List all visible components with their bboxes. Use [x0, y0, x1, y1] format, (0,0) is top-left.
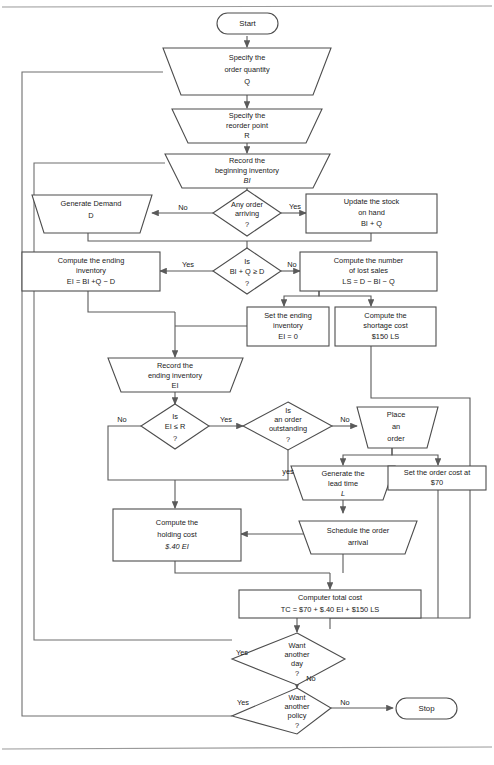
conn-computeei-down: [88, 290, 175, 312]
node-another-pol-label-1: another: [284, 702, 310, 711]
node-start-label-0: Start: [239, 19, 256, 28]
node-schedule-label-1: arrival: [348, 538, 368, 547]
node-record-bi-label-2: BI: [244, 176, 251, 185]
conn-placeorder-leadtime: [343, 448, 392, 465]
node-update-stock-label-0: Update the stock: [344, 197, 400, 206]
node-lost-sales-label-0: Compute the number: [334, 256, 404, 265]
node-eiler-label-2: ?: [173, 434, 177, 443]
node-set-ei-zero-label-1: inventory: [273, 321, 303, 330]
node-schedule-order-arrival: Schedule the order arrival: [299, 521, 417, 554]
node-record-ei-label-1: ending inventory: [148, 371, 203, 380]
node-biqged-label-1: BI + Q ≥ D: [230, 267, 265, 276]
node-eiler-label-0: Is: [172, 412, 178, 421]
node-compute-ending-inventory: Compute the ending inventory EI = BI +Q …: [22, 252, 160, 291]
node-another-day-label-3: ?: [295, 669, 299, 678]
node-lead-time-label-0: Generate the: [321, 469, 364, 478]
edge-label-biq-no: No: [287, 260, 296, 269]
node-place-order-label-0: Place: [387, 410, 406, 419]
node-generate-demand: Generate Demand D: [32, 195, 152, 233]
edge-label-biq-yes: Yes: [182, 260, 194, 269]
conn-gendemand-merge: [88, 233, 247, 241]
node-specify-order-quantity: Specify the order quantity Q: [163, 48, 331, 95]
page-bottom-rule: [2, 747, 492, 749]
node-any-order-label-2: ?: [245, 220, 249, 229]
node-specify-r-label-0: Specify the: [229, 111, 266, 120]
node-specify-reorder-point: Specify the reorder point R: [172, 109, 322, 143]
node-update-stock-label-1: on hand: [358, 208, 385, 217]
node-set-order-cost: Set the order cost at $70: [388, 466, 486, 490]
flowchart-canvas: Start Specify the order quantity Q Speci…: [0, 0, 494, 765]
conn-updatestock-merge: [247, 233, 371, 241]
node-specify-r-label-2: R: [244, 131, 249, 140]
node-compute-ei-label-1: inventory: [76, 266, 106, 275]
node-specify-q-label-1: order quantity: [224, 65, 269, 74]
node-place-order-label-1: an: [392, 422, 400, 431]
page-top-rule: [2, 6, 492, 7]
node-another-day-label-0: Want: [289, 641, 306, 650]
node-any-order-arriving: Any order arriving ?: [213, 190, 281, 236]
node-eiler-label-1: EI ≤ R: [165, 422, 185, 431]
node-outstanding-label-3: ?: [286, 435, 290, 444]
node-order-cost-label-1: $70: [431, 478, 443, 487]
edge-label-anotherpolicy-yes: Yes: [237, 698, 249, 707]
node-shortage-label-2: $150 LS: [372, 332, 400, 341]
node-stop-label-0: Stop: [418, 704, 435, 713]
node-lost-sales-label-1: of lost sales: [349, 266, 388, 275]
node-stop: Stop: [396, 698, 457, 719]
node-shortage-label-1: shortage cost: [363, 321, 407, 330]
edge-label-any-order-no: No: [178, 203, 187, 212]
node-record-beginning-inventory: Record the beginning inventory BI: [165, 154, 330, 188]
node-outstanding-label-1: an order: [274, 415, 302, 424]
edge-label-anotherday-yes: Yes: [236, 648, 248, 657]
node-another-pol-label-0: Want: [289, 693, 306, 702]
node-set-ei-zero-label-2: EI = 0: [278, 332, 298, 341]
node-gen-demand-label-1: D: [88, 211, 93, 220]
node-want-another-day: Want another day ?: [232, 633, 345, 685]
loopback-day: [34, 163, 232, 640]
node-update-stock: Update the stock on hand BI + Q: [306, 194, 437, 233]
edge-label-any-order-yes: Yes: [289, 202, 301, 211]
node-biqged-label-2: ?: [245, 279, 249, 288]
edge-label-anotherday-no: No: [306, 674, 315, 683]
node-compute-shortage-cost: Compute the shortage cost $150 LS: [335, 307, 436, 346]
node-lead-time-label-1: lead time: [328, 479, 358, 488]
node-any-order-label-0: Any order: [231, 200, 264, 209]
node-schedule-label-0: Schedule the order: [327, 526, 390, 535]
node-place-an-order: Place an order: [357, 407, 438, 448]
node-compute-holding-cost: Compute the holding cost $.40 EI: [113, 509, 241, 561]
node-start: Start: [217, 13, 278, 34]
edge-label-outstanding-no: No: [340, 415, 349, 424]
edge-label-eiler-yes: Yes: [220, 415, 232, 424]
node-specify-q-label-0: Specify the: [229, 53, 266, 62]
node-decision-bi-q-ge-d: Is BI + Q ≥ D ?: [213, 248, 281, 294]
node-holding-label-0: Compute the: [156, 518, 198, 527]
conn-lostsales-seteizero: [284, 290, 319, 306]
node-record-ending-inventory: Record the ending inventory EI: [108, 358, 243, 392]
node-record-bi-label-1: beginning inventory: [215, 166, 279, 175]
node-total-cost-label-1: TC = $70 + $.40 EI + $150 LS: [281, 605, 379, 614]
node-decision-order-outstanding: Is an order outstanding ?: [243, 402, 332, 450]
node-another-pol-label-3: ?: [295, 721, 299, 730]
node-biqged-label-0: Is: [244, 257, 250, 266]
node-want-another-policy: Want another policy ?: [232, 688, 331, 734]
node-decision-ei-le-r: Is EI ≤ R ?: [141, 404, 209, 449]
conn-placeorder-ordercost: [392, 448, 438, 465]
node-lead-time-label-2: L: [341, 489, 345, 498]
node-record-bi-label-0: Record the: [229, 156, 265, 165]
node-total-cost-label-0: Computer total cost: [298, 593, 362, 602]
node-holding-label-2: $.40 EI: [164, 542, 188, 551]
node-record-ei-label-0: Record the: [157, 361, 193, 370]
node-another-day-label-1: another: [284, 650, 310, 659]
node-any-order-label-1: arriving: [235, 209, 259, 218]
node-specify-r-label-1: reorder point: [226, 121, 268, 130]
node-another-day-label-2: day: [291, 659, 303, 668]
node-another-pol-label-2: policy: [288, 711, 307, 720]
edge-label-anotherpolicy-no: No: [340, 698, 349, 707]
node-generate-lead-time: Generate the lead time L: [291, 466, 395, 500]
node-specify-q-label-2: Q: [244, 77, 250, 86]
node-total-cost: Computer total cost TC = $70 + $.40 EI +…: [239, 590, 421, 618]
edge-label-eiler-no: No: [117, 415, 126, 424]
conn-lostsales-shortage: [319, 290, 371, 306]
node-gen-demand-label-0: Generate Demand: [61, 199, 122, 208]
node-shortage-label-0: Compute the: [364, 311, 406, 320]
